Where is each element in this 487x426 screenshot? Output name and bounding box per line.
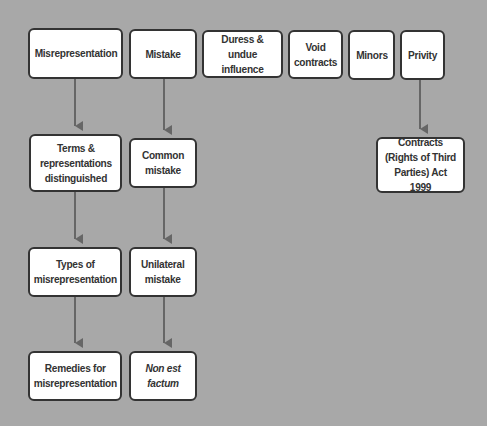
node-remedies-for-misrepresentation: Remedies for misrepresentation bbox=[28, 351, 122, 401]
node-duress-undue-influence: Duress & undue influence bbox=[202, 30, 283, 78]
node-minors: Minors bbox=[348, 30, 395, 80]
node-label: Remedies for misrepresentation bbox=[33, 361, 116, 391]
node-non-est-factum: Non est factum bbox=[129, 351, 197, 401]
node-label: Common mistake bbox=[142, 148, 184, 178]
node-label: Void contracts bbox=[294, 40, 337, 70]
node-label: Unilateral mistake bbox=[141, 257, 184, 287]
node-label: Non est factum bbox=[145, 361, 180, 391]
node-misrepresentation: Misrepresentation bbox=[28, 28, 123, 79]
node-label: Contracts (Rights of Third Parties) Act … bbox=[385, 135, 456, 195]
node-label: Privity bbox=[408, 48, 437, 63]
node-void-contracts: Void contracts bbox=[288, 30, 343, 79]
node-mistake: Mistake bbox=[129, 29, 197, 79]
node-contracts-rights-third-parties-act: Contracts (Rights of Third Parties) Act … bbox=[376, 137, 465, 193]
node-label: Misrepresentation bbox=[34, 46, 117, 61]
node-privity: Privity bbox=[400, 30, 445, 80]
node-label: Types of misrepresentation bbox=[33, 257, 116, 287]
node-unilateral-mistake: Unilateral mistake bbox=[129, 247, 197, 297]
node-terms-representations: Terms & representations distinguished bbox=[29, 134, 122, 192]
node-common-mistake: Common mistake bbox=[129, 138, 197, 188]
node-label: Mistake bbox=[145, 47, 180, 62]
node-label: Duress & undue influence bbox=[210, 32, 274, 77]
node-label: Minors bbox=[356, 48, 388, 63]
node-types-of-misrepresentation: Types of misrepresentation bbox=[28, 247, 122, 297]
node-label: Terms & representations distinguished bbox=[40, 141, 112, 186]
